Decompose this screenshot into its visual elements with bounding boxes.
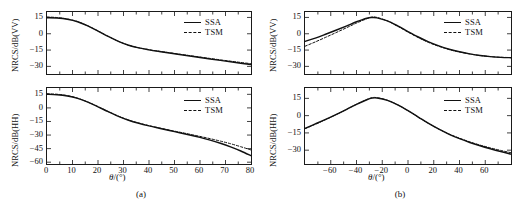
legend-entry-tsm: TSM bbox=[184, 105, 223, 115]
x-tick-label: 40 bbox=[134, 166, 162, 174]
legend-label-ssa: SSA bbox=[205, 95, 221, 105]
legend-line-solid-icon bbox=[184, 19, 201, 26]
legend-line-solid-icon bbox=[444, 97, 461, 104]
x-tick-label: 70 bbox=[211, 166, 239, 174]
legend-line-solid-icon bbox=[444, 19, 461, 26]
x-tick-label: 0 bbox=[393, 166, 421, 174]
legend-entry-tsm: TSM bbox=[444, 105, 483, 115]
x-axis-label-b: θ/(°) bbox=[368, 172, 385, 182]
legend-label-ssa: SSA bbox=[205, 17, 221, 27]
y-tick-label: −30 bbox=[20, 130, 43, 138]
subfigure-caption-b: (b) bbox=[388, 189, 412, 199]
y-tick-label: 0 bbox=[20, 103, 43, 111]
legend-entry-ssa: SSA bbox=[444, 95, 483, 105]
legend-a-bottom: SSA TSM bbox=[184, 95, 223, 115]
legend-label-tsm: TSM bbox=[205, 105, 223, 115]
legend-line-dashed-icon bbox=[184, 29, 201, 36]
y-tick-label: 15 bbox=[20, 89, 43, 97]
y-tick-label: 15 bbox=[278, 93, 301, 101]
theta-unit: /(°) bbox=[113, 172, 125, 182]
x-tick-label: 60 bbox=[185, 166, 213, 174]
legend-line-dashed-icon bbox=[184, 107, 201, 114]
y-tick-label: −45 bbox=[20, 144, 43, 152]
y-axis-label-vv-b: NRCS/dB(VV) bbox=[268, 18, 278, 72]
legend-line-dashed-icon bbox=[444, 107, 461, 114]
theta-unit: /(°) bbox=[372, 172, 384, 182]
legend-entry-ssa: SSA bbox=[184, 17, 223, 27]
y-tick-label: 15 bbox=[278, 12, 301, 20]
legend-label-tsm: TSM bbox=[465, 105, 483, 115]
x-tick-label: −40 bbox=[342, 166, 370, 174]
legend-label-tsm: TSM bbox=[465, 27, 483, 37]
subfigure-a: NRCS/dB(VV) NRCS/dB(HH) 150−15−30 SSA TS… bbox=[0, 0, 258, 212]
y-tick-label: 0 bbox=[278, 29, 301, 37]
x-tick-label: 60 bbox=[470, 166, 498, 174]
legend-entry-ssa: SSA bbox=[444, 17, 483, 27]
x-tick-label: 20 bbox=[419, 166, 447, 174]
legend-label-ssa: SSA bbox=[465, 95, 481, 105]
subfigure-caption-a: (a) bbox=[129, 189, 153, 199]
subfigure-b: NRCS/dB(VV) NRCS/dB(HH) 150−15−30 SSA TS… bbox=[258, 0, 523, 212]
y-tick-label: −30 bbox=[278, 61, 301, 69]
legend-entry-ssa: SSA bbox=[184, 95, 223, 105]
y-tick-label: −15 bbox=[20, 45, 43, 53]
y-tick-label: 0 bbox=[20, 29, 43, 37]
legend-label-tsm: TSM bbox=[205, 27, 223, 37]
legend-line-solid-icon bbox=[184, 97, 201, 104]
y-tick-label: −15 bbox=[278, 45, 301, 53]
legend-label-ssa: SSA bbox=[465, 17, 481, 27]
legend-a-top: SSA TSM bbox=[184, 17, 223, 37]
y-tick-label: 15 bbox=[20, 12, 43, 20]
y-tick-label: −30 bbox=[278, 145, 301, 153]
y-tick-label: 0 bbox=[278, 111, 301, 119]
x-tick-label: 50 bbox=[160, 166, 188, 174]
x-tick-label: 40 bbox=[445, 166, 473, 174]
y-tick-label: −15 bbox=[20, 116, 43, 124]
x-tick-label: −60 bbox=[316, 166, 344, 174]
figure-root: NRCS/dB(VV) NRCS/dB(HH) 150−15−30 SSA TS… bbox=[0, 0, 523, 212]
legend-line-dashed-icon bbox=[444, 29, 461, 36]
legend-b-bottom: SSA TSM bbox=[444, 95, 483, 115]
x-axis-label-a: θ/(°) bbox=[109, 172, 126, 182]
x-tick-label: 0 bbox=[32, 166, 60, 174]
y-tick-label: −15 bbox=[278, 128, 301, 136]
legend-entry-tsm: TSM bbox=[184, 27, 223, 37]
legend-entry-tsm: TSM bbox=[444, 27, 483, 37]
x-tick-label: 10 bbox=[58, 166, 86, 174]
y-tick-label: −60 bbox=[20, 157, 43, 165]
y-tick-label: −30 bbox=[20, 61, 43, 69]
y-axis-label-hh-b: NRCS/dB(HH) bbox=[268, 113, 278, 167]
y-axis-label-hh-a: NRCS/dB(HH) bbox=[10, 113, 20, 167]
x-tick-label: 20 bbox=[83, 166, 111, 174]
legend-b-top: SSA TSM bbox=[444, 17, 483, 37]
y-axis-label-vv-a: NRCS/dB(VV) bbox=[10, 18, 20, 72]
